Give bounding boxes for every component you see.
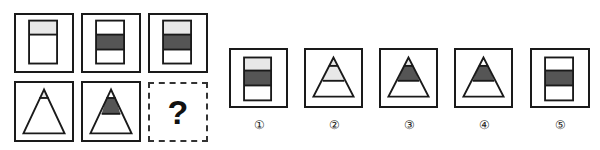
grid-cell-r2c1	[14, 81, 74, 142]
grid-cell-r1c1	[14, 13, 74, 73]
rectangle-dark-middle-icon	[532, 50, 588, 106]
rectangle-light-dark-icon	[231, 50, 286, 106]
option-4[interactable]	[454, 48, 513, 108]
grid-cell-r1c3	[148, 13, 208, 73]
option-2[interactable]	[304, 48, 363, 108]
option-1-label: ①	[249, 117, 269, 133]
grid-cell-unknown: ?	[148, 82, 208, 142]
option-1[interactable]	[229, 48, 288, 108]
triangle-dark-middle-icon	[456, 50, 511, 106]
grid-cell-r2c2	[81, 81, 141, 142]
option-3[interactable]	[379, 48, 438, 108]
rectangle-light-dark-icon	[150, 15, 206, 71]
option-2-label: ②	[324, 117, 344, 133]
option-4-label: ④	[474, 117, 494, 133]
option-5[interactable]	[530, 48, 590, 108]
option-3-label: ③	[399, 117, 419, 133]
rectangle-light-top-icon	[16, 15, 72, 71]
triangle-light-top-icon	[16, 83, 72, 140]
triangle-light-light-icon	[306, 50, 361, 106]
triangle-dark-middle-icon	[83, 83, 139, 140]
question-mark: ?	[150, 84, 206, 140]
rectangle-dark-middle-icon	[83, 15, 139, 71]
triangle-light-dark-icon	[381, 50, 436, 106]
grid-cell-r1c2	[81, 13, 141, 73]
option-5-label: ⑤	[550, 117, 570, 133]
